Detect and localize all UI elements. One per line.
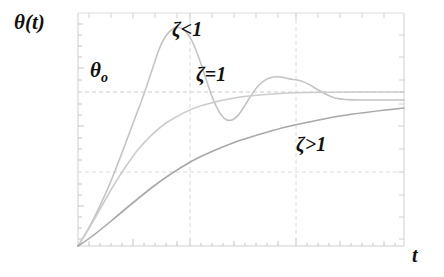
steady-state-label: θo [90,60,108,85]
steady-state-subscript: o [101,70,108,85]
curve-underdamped [78,27,404,246]
x-axis-label: t [412,245,418,265]
top-axis-ticks [89,13,384,20]
x-axis-ticks [89,239,395,246]
curve-critically-damped [78,92,404,246]
plot-frame [78,13,404,246]
curve-label-critically-damped: ζ=1 [196,64,226,84]
right-axis-ticks [398,35,404,239]
curve-label-overdamped: ζ>1 [296,134,326,154]
plot-canvas [0,0,444,277]
y-axis-ticks [78,24,84,239]
curve-overdamped [78,108,404,246]
grid-lines [78,13,404,246]
steady-state-symbol: θ [90,58,101,82]
y-axis-label: θ(t) [14,12,45,33]
figure-container: θ(t) θo ζ<1 ζ=1 ζ>1 t [0,0,444,277]
curve-group [78,27,404,246]
curve-label-underdamped: ζ<1 [172,19,202,39]
